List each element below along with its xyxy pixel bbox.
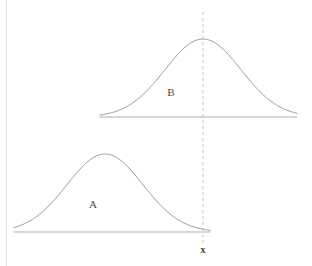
distribution-figure: B A x	[0, 0, 312, 266]
curve-label-a: A	[89, 198, 97, 210]
curve-label-b: B	[167, 86, 174, 98]
figure-canvas: B A x	[0, 0, 312, 266]
distribution-curve-b	[100, 39, 297, 115]
x-axis-marker-label: x	[201, 244, 206, 255]
distribution-curve-a	[14, 154, 210, 230]
